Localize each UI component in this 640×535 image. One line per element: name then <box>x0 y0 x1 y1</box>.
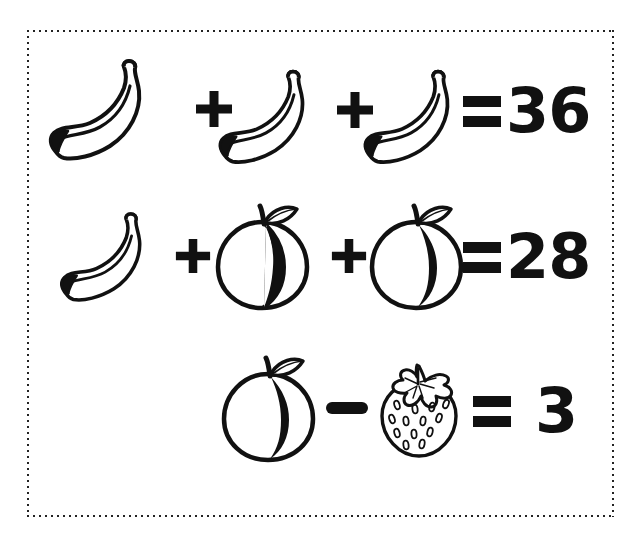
equation-result-3: 3 <box>473 376 577 446</box>
strawberry-icon <box>367 352 471 466</box>
equals-sign <box>473 396 511 427</box>
equals-sign <box>463 96 501 127</box>
equation-result-2: 28 <box>463 222 590 292</box>
banana-icon <box>41 52 161 170</box>
equation-row-3: 3 <box>27 350 614 468</box>
banana-icon <box>51 202 161 314</box>
result-value: 36 <box>506 80 590 142</box>
result-value: 28 <box>506 226 590 288</box>
banana-icon <box>207 62 327 174</box>
peach-icon <box>361 198 471 316</box>
equation-row-2: 28 <box>27 198 614 316</box>
equation-result-1: 36 <box>463 76 590 146</box>
peach-icon <box>213 350 323 468</box>
result-value: 3 <box>535 380 577 442</box>
equation-row-1: 36 <box>27 52 614 170</box>
puzzle-frame: 36 <box>27 30 614 517</box>
peach-icon <box>207 198 317 316</box>
frame-border-top <box>27 30 614 32</box>
equals-sign <box>463 242 501 273</box>
frame-border-bottom <box>27 515 614 517</box>
banana-icon <box>352 62 472 174</box>
